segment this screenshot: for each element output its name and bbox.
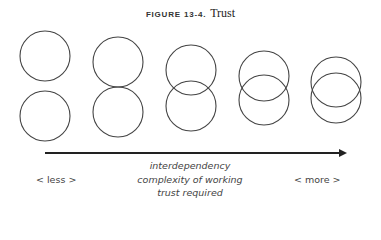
circle-top-4 xyxy=(239,51,289,101)
circle-bottom-5 xyxy=(311,73,361,123)
circle-top-5 xyxy=(311,57,361,107)
circle-bottom-2 xyxy=(93,87,143,137)
less-label: < less > xyxy=(36,174,76,185)
circle-bottom-3 xyxy=(166,81,216,131)
axis-line-trust: trust required xyxy=(110,186,270,200)
circle-top-2 xyxy=(93,37,143,87)
circle-bottom-1 xyxy=(20,91,70,141)
circle-top-1 xyxy=(20,31,70,81)
circle-pairs xyxy=(20,31,361,141)
circle-bottom-4 xyxy=(239,75,289,125)
axis-line-interdependency: interdependency xyxy=(110,159,270,173)
more-label: < more > xyxy=(294,174,341,185)
axis-description: interdependency complexity of working tr… xyxy=(110,159,270,200)
arrow xyxy=(45,149,347,157)
axis-line-complexity: complexity of working xyxy=(110,173,270,187)
